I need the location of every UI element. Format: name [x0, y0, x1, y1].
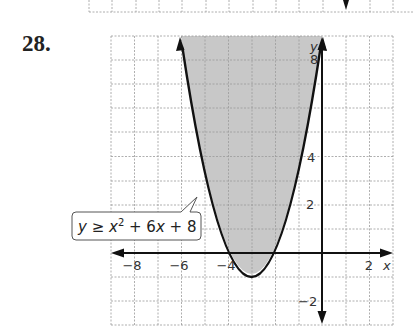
y-axis — [318, 37, 327, 324]
x-tick-label: −6 — [169, 258, 188, 273]
inequality-graph: −8 −6 −4 2 x y 8 4 2 −2 y ≥ x2 + 6x + 8 — [0, 0, 413, 331]
previous-graph-fragment — [89, 0, 413, 12]
y-tick-label: 8 — [310, 52, 318, 67]
grid — [111, 36, 393, 325]
y-tick-label: 4 — [307, 150, 315, 165]
y-axis-down-arrow-icon — [318, 311, 327, 324]
equation-label: y ≥ x2 + 6x + 8 — [77, 217, 196, 236]
x-tick-label: −8 — [122, 258, 141, 273]
x-axis-right-arrow-icon — [380, 249, 393, 258]
x-axis-left-arrow-icon — [111, 249, 124, 258]
y-tick-label: 2 — [306, 197, 314, 212]
x-tick-label: −4 — [216, 258, 235, 273]
x-axis-label: x — [382, 258, 391, 273]
x-tick-label: 2 — [365, 258, 373, 273]
equation-callout: y ≥ x2 + 6x + 8 — [72, 197, 201, 240]
y-tick-label: −2 — [298, 294, 317, 309]
